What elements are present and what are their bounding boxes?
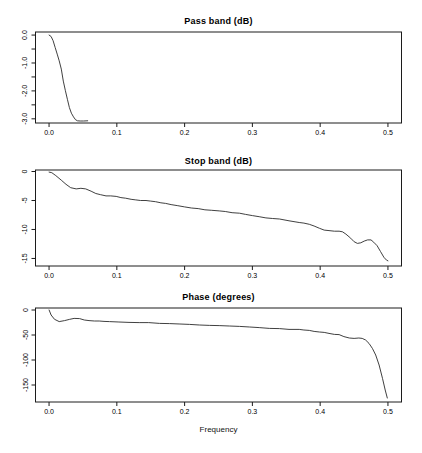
y-tick-label: -50 — [22, 330, 29, 340]
panel-stop-band: 0.00.10.20.30.40.50-5-10-15 — [22, 169, 402, 279]
x-tick-label: 0.0 — [44, 129, 54, 136]
plots-canvas: 0.00.10.20.30.40.50.0-1.0-2.0-3.00.00.10… — [0, 0, 422, 453]
x-tick-label: 0.4 — [315, 408, 325, 415]
panel-pass-band: 0.00.10.20.30.40.50.0-1.0-2.0-3.0 — [22, 30, 402, 136]
x-tick-label: 0.2 — [180, 408, 190, 415]
x-tick-label: 0.3 — [248, 408, 258, 415]
filter-response-figure: Pass band (dB) Stop band (dB) Phase (deg… — [0, 0, 422, 453]
y-tick-label: -2.0 — [22, 85, 29, 97]
y-tick-label: -100 — [22, 353, 29, 367]
x-tick-label: 0.1 — [112, 272, 122, 279]
y-tick-label: -3.0 — [22, 113, 29, 125]
y-tick-label: 0.0 — [22, 30, 29, 40]
plot-box — [36, 308, 402, 402]
x-tick-label: 0.2 — [180, 272, 190, 279]
x-tick-label: 0.5 — [383, 129, 393, 136]
y-tick-label: 0 — [22, 308, 29, 312]
y-tick-label: -1.0 — [22, 57, 29, 69]
x-tick-label: 0.3 — [248, 129, 258, 136]
stop-band-curve — [49, 172, 388, 261]
plot-box — [36, 170, 402, 266]
x-tick-label: 0.1 — [112, 408, 122, 415]
panel-phase: 0.00.10.20.30.40.50-50-100-150 — [22, 308, 402, 415]
pass-band-curve — [49, 35, 88, 121]
x-tick-label: 0.5 — [383, 272, 393, 279]
y-tick-label: -150 — [22, 378, 29, 392]
x-tick-label: 0.5 — [383, 408, 393, 415]
x-tick-label: 0.3 — [248, 272, 258, 279]
x-tick-label: 0.1 — [112, 129, 122, 136]
x-tick-label: 0.2 — [180, 129, 190, 136]
y-tick-label: -5 — [22, 197, 29, 203]
y-tick-label: -15 — [22, 253, 29, 263]
x-tick-label: 0.4 — [315, 129, 325, 136]
y-tick-label: 0 — [22, 169, 29, 173]
x-tick-label: 0.0 — [44, 272, 54, 279]
x-tick-label: 0.0 — [44, 408, 54, 415]
plot-box — [36, 32, 402, 123]
y-tick-label: -10 — [22, 224, 29, 234]
phase-curve — [49, 310, 387, 398]
x-tick-label: 0.4 — [315, 272, 325, 279]
